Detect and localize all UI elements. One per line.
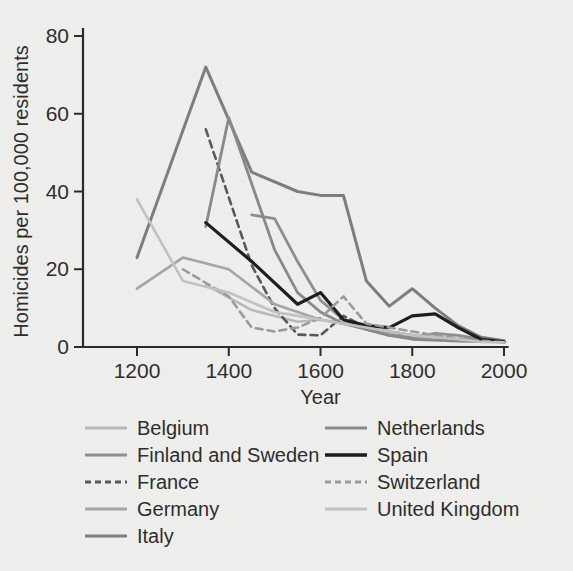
legend-item-netherlands[interactable]: Netherlands <box>324 414 564 441</box>
legend-item-italy[interactable]: Italy <box>84 522 324 549</box>
legend-swatch-icon <box>84 529 128 543</box>
legend-label: Germany <box>137 499 219 519</box>
series-line-belgium <box>206 285 504 342</box>
x-tick-label-1800: 1800 <box>389 359 436 382</box>
legend-label: Finland and Sweden <box>137 445 319 465</box>
legend-label: Spain <box>377 445 428 465</box>
legend-item-spain[interactable]: Spain <box>324 441 564 468</box>
legend-swatch-icon <box>324 475 368 489</box>
legend-column-left: BelgiumFinland and SwedenFranceGermanyIt… <box>84 414 324 549</box>
legend-swatch-icon <box>324 502 368 516</box>
x-tick-label-1400: 1400 <box>205 359 252 382</box>
homicide-rate-line-chart: 02040608012001400160018002000YearHomicid… <box>0 0 573 410</box>
y-tick-label-40: 40 <box>46 180 69 203</box>
series-layer <box>137 67 504 342</box>
legend-swatch-icon <box>324 421 368 435</box>
x-tick-label-2000: 2000 <box>481 359 528 382</box>
chart-legend: BelgiumFinland and SwedenFranceGermanyIt… <box>84 414 564 549</box>
legend-label: Switzerland <box>377 472 480 492</box>
legend-item-switzerland[interactable]: Switzerland <box>324 468 564 495</box>
legend-label: United Kingdom <box>377 499 519 519</box>
legend-label: France <box>137 472 199 492</box>
legend-item-belgium[interactable]: Belgium <box>84 414 324 441</box>
legend-item-germany[interactable]: Germany <box>84 495 324 522</box>
y-tick-label-0: 0 <box>57 335 69 358</box>
x-tick-label-1600: 1600 <box>297 359 344 382</box>
legend-swatch-icon <box>84 502 128 516</box>
y-tick-label-20: 20 <box>46 257 69 280</box>
x-tick-label-1200: 1200 <box>114 359 161 382</box>
legend-swatch-icon <box>84 475 128 489</box>
y-tick-label-60: 60 <box>46 102 69 125</box>
legend-label: Belgium <box>137 418 209 438</box>
legend-label: Italy <box>137 526 174 546</box>
legend-swatch-icon <box>84 421 128 435</box>
legend-item-united-kingdom[interactable]: United Kingdom <box>324 495 564 522</box>
axis-layer: 02040608012001400160018002000YearHomicid… <box>10 24 527 408</box>
chart-figure: 02040608012001400160018002000YearHomicid… <box>0 0 573 571</box>
y-axis-title: Homicides per 100,000 residents <box>10 45 32 337</box>
legend-item-france[interactable]: France <box>84 468 324 495</box>
legend-label: Netherlands <box>377 418 485 438</box>
legend-item-finland-and-sweden[interactable]: Finland and Sweden <box>84 441 324 468</box>
legend-swatch-icon <box>84 448 128 462</box>
series-line-switzerland <box>183 269 504 342</box>
legend-column-right: NetherlandsSpainSwitzerlandUnited Kingdo… <box>324 414 564 549</box>
legend-swatch-icon <box>324 448 368 462</box>
y-tick-label-80: 80 <box>46 24 69 47</box>
x-axis-title: Year <box>300 386 341 408</box>
